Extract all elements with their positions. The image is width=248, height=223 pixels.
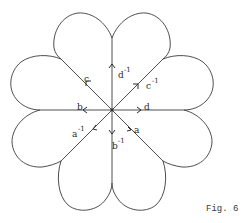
petal-ne-e xyxy=(163,56,213,110)
figure-caption: Fig. 6 xyxy=(206,204,238,214)
spoke-southeast xyxy=(112,110,163,161)
label-d-inverse-exponent: -1 xyxy=(124,66,131,74)
petal-w-nw xyxy=(11,56,61,110)
petal-sw-w xyxy=(12,110,61,167)
flower-diagram: d d -1 b b -1 c c -1 a a -1 Fig. 6 xyxy=(0,0,248,223)
spoke-southwest xyxy=(61,110,112,161)
arrow-down-right-icon xyxy=(127,127,131,131)
petal-n-ne xyxy=(112,13,170,59)
label-c-inverse-exponent: -1 xyxy=(152,77,159,85)
label-d: d xyxy=(144,102,150,112)
petal-se-s xyxy=(112,161,166,210)
petal-e-se xyxy=(163,110,212,167)
petal-nw-n xyxy=(54,13,112,59)
label-b: b xyxy=(77,102,83,112)
label-c: c xyxy=(84,74,89,84)
label-c-inverse: c xyxy=(146,81,151,91)
label-a-inverse-exponent: -1 xyxy=(78,125,85,133)
center-vertex xyxy=(111,109,114,112)
petal-s-sw xyxy=(58,161,112,210)
label-a: a xyxy=(134,125,140,135)
label-b-inverse-exponent: -1 xyxy=(118,137,125,145)
